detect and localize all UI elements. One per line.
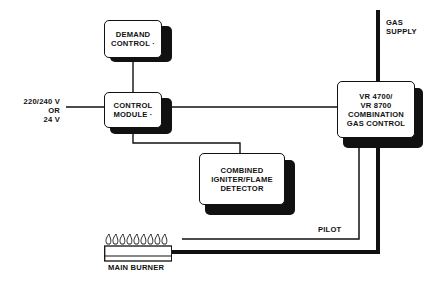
control-module-line2: MODULE · xyxy=(113,110,152,119)
igniter-flame-detector-box: COMBINED IGNITER/FLAME DETECTOR xyxy=(199,153,285,205)
pilot-label: PILOT xyxy=(318,225,341,234)
burner-body xyxy=(105,246,172,261)
power-line3: 24 V xyxy=(10,115,60,124)
power-input-label: 220/240 V OR 24 V xyxy=(10,97,60,124)
gas-supply-label: GAS SUPPLY xyxy=(386,18,417,36)
main-burner-label: MAIN BURNER xyxy=(108,263,164,272)
control-module-box: CONTROL MODULE · xyxy=(104,92,162,128)
power-line1: 220/240 V xyxy=(10,97,60,106)
gas-supply-line1: GAS xyxy=(386,18,417,27)
demand-control-box: DEMAND CONTROL · xyxy=(104,20,162,58)
igniter-line1: COMBINED xyxy=(221,166,264,175)
gas-control-line3: COMBINATION xyxy=(348,110,404,119)
power-line2: OR xyxy=(10,106,60,115)
demand-control-line1: DEMAND xyxy=(116,30,151,39)
demand-control-line2: CONTROL · xyxy=(111,39,155,48)
gas-control-line1: VR 4700/ xyxy=(359,92,392,101)
igniter-line2: IGNITER/FLAME xyxy=(211,175,273,184)
control-module-line1: CONTROL xyxy=(114,101,153,110)
flame-icons xyxy=(106,234,167,244)
module-to-igniter-wire xyxy=(133,132,240,153)
gas-control-line2: VR 8700 xyxy=(361,101,392,110)
igniter-line3: DETECTOR xyxy=(220,184,263,193)
gas-supply-line2: SUPPLY xyxy=(386,27,417,36)
main-burner xyxy=(104,231,172,263)
gas-control-box: VR 4700/ VR 8700 COMBINATION GAS CONTROL xyxy=(337,81,415,138)
gas-control-line4: GAS CONTROL xyxy=(347,119,405,128)
